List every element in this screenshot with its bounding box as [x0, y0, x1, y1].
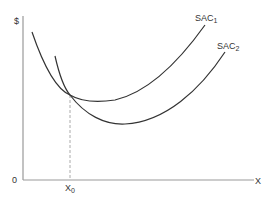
sac1-label: SAC1 — [195, 13, 218, 24]
sac1-curve — [32, 25, 205, 101]
y-axis-label: $ — [14, 16, 19, 26]
x0-label: X0 — [65, 183, 75, 194]
chart-svg: $ 0 X X0 SAC1 SAC2 — [0, 0, 272, 198]
sac2-label: SAC2 — [217, 41, 240, 52]
sac2-curve — [55, 52, 225, 124]
origin-label: 0 — [12, 175, 17, 185]
cost-curve-diagram: $ 0 X X0 SAC1 SAC2 — [0, 0, 272, 198]
x-axis-label: X — [255, 176, 261, 186]
